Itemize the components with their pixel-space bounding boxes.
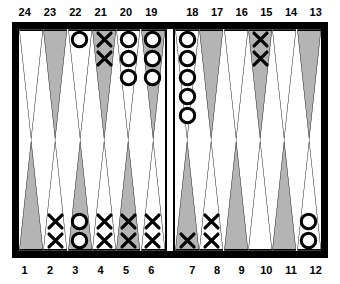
point-triangle [199, 140, 223, 251]
point-label-14: 14 [279, 0, 304, 24]
point-triangle [297, 140, 321, 251]
board-frame [12, 22, 328, 258]
point-label-21: 21 [88, 0, 113, 24]
point-15[interactable] [248, 29, 272, 140]
point-label-16: 16 [229, 0, 254, 24]
bottom-label-bar-gap [164, 258, 180, 282]
point-triangle [92, 140, 116, 251]
point-4[interactable] [92, 140, 116, 251]
point-18[interactable] [175, 29, 199, 140]
backgammon-board: 24 23 22 21 20 19 18 17 16 15 14 13 [0, 0, 340, 284]
quadrant-top-left [19, 29, 165, 140]
bottom-left-label-group: 1 2 3 4 5 6 [12, 258, 164, 282]
point-label-15: 15 [254, 0, 279, 24]
point-label-23: 23 [37, 0, 62, 24]
quadrant-bottom-left [19, 140, 165, 251]
point-label-22: 22 [63, 0, 88, 24]
point-6[interactable] [141, 140, 165, 251]
point-label-7: 7 [180, 258, 205, 282]
point-label-17: 17 [205, 0, 230, 24]
point-label-2: 2 [37, 258, 62, 282]
point-23[interactable] [43, 29, 67, 140]
left-half [19, 29, 165, 251]
point-triangle [141, 29, 165, 140]
point-10[interactable] [248, 140, 272, 251]
point-triangle [175, 29, 199, 140]
point-16[interactable] [224, 29, 248, 140]
point-triangle [19, 29, 43, 140]
point-19[interactable] [141, 29, 165, 140]
point-triangle [19, 140, 43, 251]
point-label-3: 3 [63, 258, 88, 282]
point-label-9: 9 [229, 258, 254, 282]
point-3[interactable] [68, 140, 92, 251]
quadrant-top-right [175, 29, 321, 140]
point-triangle [116, 29, 140, 140]
top-right-label-group: 18 17 16 15 14 13 [180, 0, 328, 24]
point-triangle [116, 140, 140, 251]
top-left-label-group: 24 23 22 21 20 19 [12, 0, 164, 24]
right-half [175, 29, 321, 251]
point-17[interactable] [199, 29, 223, 140]
point-triangle [272, 29, 296, 140]
point-7[interactable] [175, 140, 199, 251]
point-22[interactable] [68, 29, 92, 140]
point-label-12: 12 [303, 258, 328, 282]
point-triangle [224, 29, 248, 140]
point-triangle [43, 29, 67, 140]
point-triangle [141, 140, 165, 251]
point-label-11: 11 [279, 258, 304, 282]
point-triangle [68, 140, 92, 251]
point-label-13: 13 [303, 0, 328, 24]
point-13[interactable] [297, 29, 321, 140]
point-2[interactable] [43, 140, 67, 251]
point-triangle [43, 140, 67, 251]
point-label-5: 5 [113, 258, 138, 282]
point-label-19: 19 [139, 0, 164, 24]
point-label-10: 10 [254, 258, 279, 282]
point-20[interactable] [116, 29, 140, 140]
point-triangle [272, 140, 296, 251]
point-8[interactable] [199, 140, 223, 251]
point-triangle [297, 29, 321, 140]
point-12[interactable] [297, 140, 321, 251]
point-24[interactable] [19, 29, 43, 140]
point-label-1: 1 [12, 258, 37, 282]
point-triangle [92, 29, 116, 140]
bottom-right-label-group: 7 8 9 10 11 12 [180, 258, 328, 282]
playfield [19, 29, 321, 251]
quadrant-bottom-right [175, 140, 321, 251]
point-triangle [248, 140, 272, 251]
point-label-18: 18 [180, 0, 205, 24]
top-label-bar-gap [164, 0, 180, 24]
point-9[interactable] [224, 140, 248, 251]
point-14[interactable] [272, 29, 296, 140]
point-label-8: 8 [205, 258, 230, 282]
point-5[interactable] [116, 140, 140, 251]
point-triangle [199, 29, 223, 140]
point-triangle [175, 140, 199, 251]
point-triangle [68, 29, 92, 140]
point-11[interactable] [272, 140, 296, 251]
point-label-4: 4 [88, 258, 113, 282]
point-label-20: 20 [113, 0, 138, 24]
bottom-point-labels: 1 2 3 4 5 6 7 8 9 10 11 12 [0, 258, 340, 282]
point-21[interactable] [92, 29, 116, 140]
point-triangle [224, 140, 248, 251]
point-1[interactable] [19, 140, 43, 251]
point-triangle [248, 29, 272, 140]
center-bar[interactable] [165, 29, 175, 251]
point-label-6: 6 [139, 258, 164, 282]
top-point-labels: 24 23 22 21 20 19 18 17 16 15 14 13 [0, 0, 340, 24]
point-label-24: 24 [12, 0, 37, 24]
